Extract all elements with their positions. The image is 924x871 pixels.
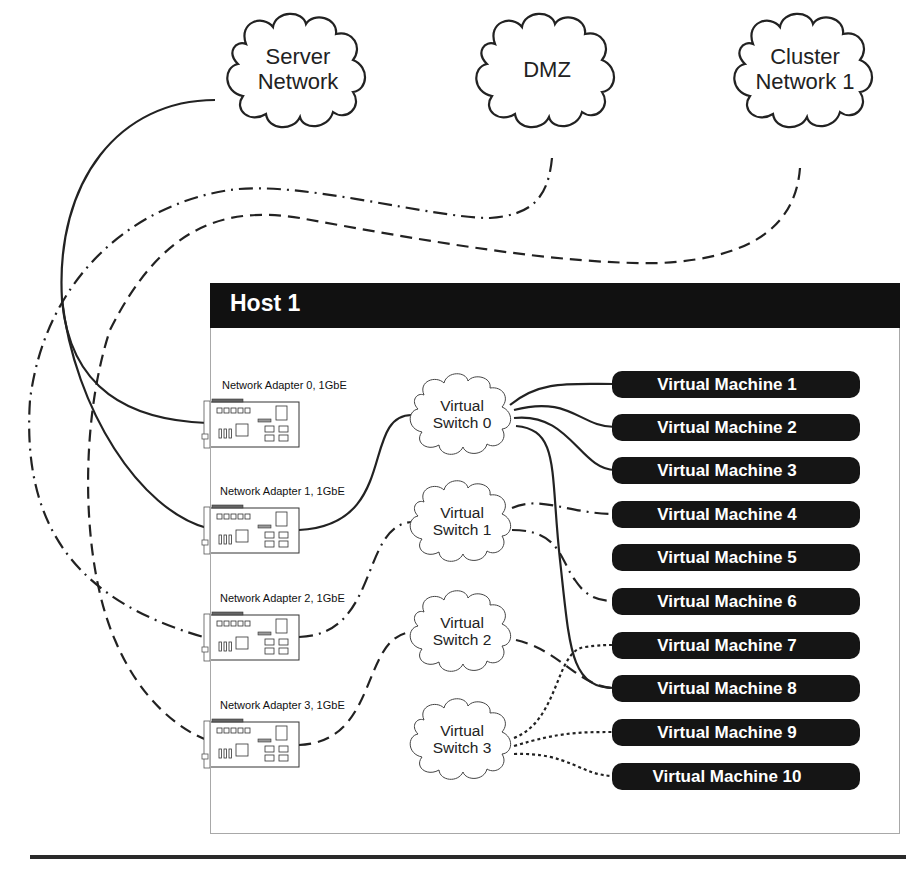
- link-server-to-adapter1: [62, 300, 207, 528]
- vm-pill-4: Virtual Machine 4: [612, 501, 860, 528]
- switch-label-2: Virtual Switch 2: [422, 614, 502, 649]
- vm-pill-5: Virtual Machine 5: [612, 544, 860, 571]
- adapter-label-3: Network Adapter 3, 1GbE: [220, 699, 345, 711]
- network-label-cluster-1: Cluster Network 1: [745, 45, 865, 94]
- switch-label-1: Virtual Switch 1: [422, 504, 502, 539]
- network-label-server: Server Network: [248, 45, 348, 94]
- vm-pill-3: Virtual Machine 3: [612, 457, 860, 484]
- vm-pill-6: Virtual Machine 6: [612, 588, 860, 615]
- vm-pill-8: Virtual Machine 8: [612, 675, 860, 702]
- adapter-label-2: Network Adapter 2, 1GbE: [220, 592, 345, 604]
- vm-pill-7: Virtual Machine 7: [612, 632, 860, 659]
- switch-label-0: Virtual Switch 0: [422, 397, 502, 432]
- link-server-to-adapter0: [61, 100, 215, 423]
- host-title: Host 1: [230, 290, 300, 317]
- host-header-bar: [210, 283, 900, 328]
- vm-pill-9: Virtual Machine 9: [612, 719, 860, 746]
- network-label-dmz: DMZ: [497, 58, 597, 83]
- vm-pill-10: Virtual Machine 10: [612, 763, 860, 790]
- adapter-label-0: Network Adapter 0, 1GbE: [222, 379, 347, 391]
- switch-label-3: Virtual Switch 3: [422, 722, 502, 757]
- bottom-rule-divider: [30, 855, 906, 859]
- vm-pill-2: Virtual Machine 2: [612, 414, 860, 441]
- adapter-label-1: Network Adapter 1, 1GbE: [220, 485, 345, 497]
- vm-pill-1: Virtual Machine 1: [612, 371, 860, 398]
